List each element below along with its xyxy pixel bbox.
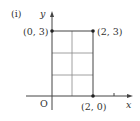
point-2-3	[91, 29, 95, 33]
y-axis-arrow-icon	[50, 11, 54, 17]
y-axis-label: y	[39, 8, 46, 19]
point-label-0-3: (0, 3)	[23, 26, 49, 37]
grid	[52, 31, 93, 96]
coordinate-diagram: (i) y x O (0, 3) (2, 3) (2, 0)	[0, 0, 140, 121]
rectangle	[52, 31, 93, 96]
x-axis-label: x	[126, 99, 132, 110]
origin-label: O	[40, 98, 48, 109]
points	[50, 29, 95, 98]
point-2-0	[91, 94, 95, 98]
part-label: (i)	[11, 8, 21, 19]
point-label-2-3: (2, 3)	[97, 26, 123, 37]
x-axis-arrow-icon	[127, 94, 133, 98]
point-0-3	[50, 29, 54, 33]
point-label-2-0: (2, 0)	[81, 101, 107, 112]
